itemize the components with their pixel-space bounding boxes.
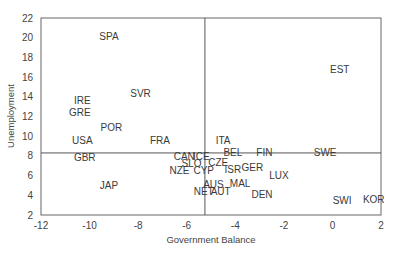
- x-tick-label: 0: [330, 220, 336, 231]
- x-tick-label: -4: [231, 220, 240, 231]
- y-tick-label: 14: [22, 91, 34, 102]
- y-tick-label: 10: [22, 131, 34, 142]
- y-tick-label: 2: [27, 210, 33, 221]
- data-point-label: SVR: [130, 88, 151, 99]
- y-axis-title: Unemployment: [5, 84, 16, 148]
- data-point-label: GER: [241, 162, 263, 173]
- y-tick-label: 18: [22, 52, 34, 63]
- x-tick-label: -2: [279, 220, 288, 231]
- data-point-label: ISR: [225, 164, 242, 175]
- data-point-label: GRE: [69, 107, 91, 118]
- x-tick-label: -6: [182, 220, 191, 231]
- x-axis-ticks: -12-10-8-6-4-202: [34, 220, 384, 231]
- data-point-label: LUX: [269, 170, 289, 181]
- data-point-label: AUT: [211, 186, 231, 197]
- y-tick-label: 4: [27, 190, 33, 201]
- data-point-label: FIN: [256, 147, 272, 158]
- y-tick-label: 8: [27, 150, 33, 161]
- data-point-label: DEN: [251, 189, 272, 200]
- data-point-label: GBR: [74, 152, 96, 163]
- data-point-label: ITA: [216, 135, 231, 146]
- data-point-label: SWI: [333, 195, 352, 206]
- data-point-label: SWE: [314, 147, 337, 158]
- data-point-label: USA: [72, 135, 93, 146]
- data-point-label: EST: [330, 64, 349, 75]
- data-point-label: SPA: [99, 31, 119, 42]
- x-tick-label: 2: [378, 220, 384, 231]
- data-point-label: FRA: [150, 135, 170, 146]
- y-tick-label: 20: [22, 32, 34, 43]
- y-tick-label: 16: [22, 72, 34, 83]
- x-tick-label: -10: [82, 220, 97, 231]
- data-point-label: KOR: [363, 194, 385, 205]
- y-tick-label: 6: [27, 170, 33, 181]
- data-point-label: MAL: [230, 178, 251, 189]
- scatter-chart: -12-10-8-6-4-202 246810121416182022 Gove…: [0, 0, 396, 258]
- y-tick-label: 22: [22, 13, 34, 24]
- data-point-label: POR: [101, 122, 123, 133]
- data-point-label: IRE: [74, 95, 91, 106]
- x-tick-label: -8: [134, 220, 143, 231]
- data-point-labels: SPAESTSVRIREGREPORUSAFRAITAGBRCANICEBELF…: [69, 31, 385, 206]
- data-point-label: JAP: [100, 180, 119, 191]
- data-point-label: CYP: [193, 165, 214, 176]
- data-point-label: NZE: [169, 165, 189, 176]
- x-axis-title: Government Balance: [166, 234, 255, 245]
- y-axis-ticks: 246810121416182022: [22, 13, 34, 221]
- x-tick-label: -12: [34, 220, 49, 231]
- y-tick-label: 12: [22, 111, 34, 122]
